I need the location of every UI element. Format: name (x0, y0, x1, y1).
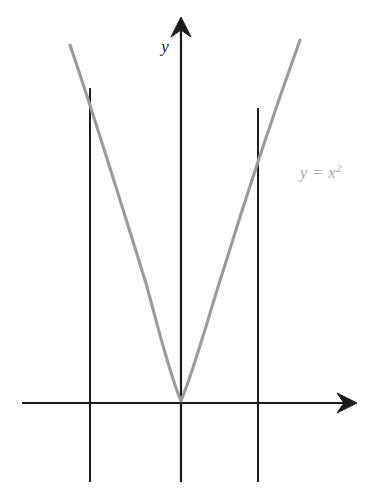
parabola-figure: y y = x2 (0, 0, 386, 503)
curve-equation-exponent: 2 (336, 162, 342, 174)
graph-canvas: y y = x2 (0, 0, 386, 503)
parabola-curve (70, 40, 300, 401)
curve-equation-base: y = x (298, 164, 336, 182)
y-axis-label: y (159, 37, 169, 56)
curve-equation-label: y = x2 (298, 162, 342, 182)
